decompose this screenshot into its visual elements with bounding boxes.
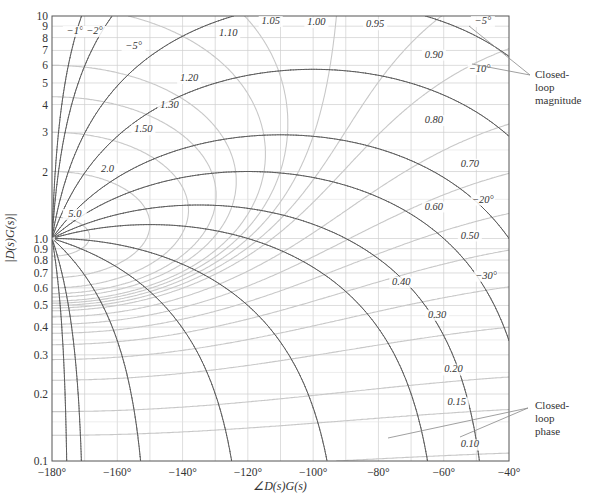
phase-contour-label: −5° xyxy=(475,15,492,26)
magnitude-contour-label: 1.10 xyxy=(219,27,238,38)
phase-contour-label: −5° xyxy=(125,40,142,51)
annotation-text: magnitude xyxy=(535,94,582,106)
magnitude-contour-label: 1.50 xyxy=(134,123,153,134)
y-tick-label: 0.3 xyxy=(34,349,49,361)
x-tick-label: −80° xyxy=(367,466,390,478)
magnitude-contour-label: 0.60 xyxy=(425,201,444,212)
y-tick-label: 7 xyxy=(42,44,48,56)
x-tick-label: −180° xyxy=(38,466,67,478)
x-tick-label: −40° xyxy=(498,466,521,478)
annotation-closed-loop-phase: Closed- loop phase xyxy=(388,399,570,438)
y-tick-label: 2 xyxy=(42,166,48,178)
y-tick-label: 8 xyxy=(42,32,48,44)
magnitude-contour-label: 1.30 xyxy=(160,99,179,110)
y-tick-label: 6 xyxy=(42,59,48,71)
y-tick-label: 0.8 xyxy=(34,254,49,266)
magnitude-contour-label: 0.30 xyxy=(428,309,447,320)
annotation-text: phase xyxy=(535,425,560,437)
y-tick-label: 4 xyxy=(42,99,48,111)
x-tick-label: −120° xyxy=(234,466,263,478)
magnitude-contour-label: 0.95 xyxy=(366,18,384,29)
magnitude-contour-label: 0.10 xyxy=(461,438,480,449)
x-axis-label: ∠D(s)G(s) xyxy=(253,479,307,493)
phase-contour xyxy=(55,205,479,461)
magnitude-contour-label: 0.40 xyxy=(392,276,411,287)
phase-contour-label: −1° xyxy=(67,25,84,36)
magnitude-contour-label: 2.0 xyxy=(101,163,115,174)
y-tick-label: 0.6 xyxy=(34,282,49,294)
magnitude-contour xyxy=(336,453,509,461)
y-tick-label: 0.5 xyxy=(34,299,49,311)
phase-contour-label: −2° xyxy=(86,25,103,36)
y-tick-label: 0.4 xyxy=(34,321,49,333)
x-tick-label: −60° xyxy=(432,466,455,478)
y-tick-label: 0.7 xyxy=(34,267,49,279)
y-tick-label: 0.2 xyxy=(34,388,49,400)
y-tick-label: 3 xyxy=(42,126,48,138)
y-tick-label: 9 xyxy=(42,20,48,32)
magnitude-contour-label: 0.20 xyxy=(444,363,463,374)
magnitude-contour-label: 5.0 xyxy=(68,208,82,219)
magnitude-contour-label: 1.20 xyxy=(180,72,199,83)
magnitude-contour-label: 0.70 xyxy=(461,158,480,169)
magnitude-contour-label: 0.50 xyxy=(461,230,480,241)
annotation-leader-line xyxy=(460,408,528,437)
magnitude-contour-label: 1.05 xyxy=(262,15,280,26)
annotation-text: Closed- xyxy=(535,68,570,80)
y-tick-label: 0.1 xyxy=(34,455,49,467)
magnitude-contour-label: 1.00 xyxy=(307,16,326,27)
phase-contour-label: −10° xyxy=(469,63,492,74)
magnitude-contour-label: 0.80 xyxy=(425,114,444,125)
y-axis-label: |D(s)G(s)| xyxy=(3,213,17,262)
magnitude-contour-label: 0.90 xyxy=(425,49,444,60)
y-tick-label: 0.9 xyxy=(34,243,49,255)
annotation-text: Closed- xyxy=(535,399,570,411)
x-tick-label: −140° xyxy=(168,466,197,478)
magnitude-contour-label: 0.15 xyxy=(448,396,466,407)
y-tick-label: 5 xyxy=(42,77,48,89)
phase-contour-label: −20° xyxy=(472,194,495,205)
phase-contour-label: −30° xyxy=(475,270,498,281)
x-tick-label: −160° xyxy=(103,466,132,478)
annotation-text: loop xyxy=(535,81,555,93)
x-tick-label: −100° xyxy=(299,466,328,478)
x-axis-ticks: −180°−160°−140°−120°−100°−80°−60°−40° xyxy=(38,466,521,478)
y-axis-ticks: 10987654321.00.90.80.70.60.50.40.30.20.1 xyxy=(34,10,49,467)
nichols-chart: −180°−160°−140°−120°−100°−80°−60°−40° 10… xyxy=(0,0,590,502)
magnitude-contour xyxy=(52,16,336,306)
annotation-text: loop xyxy=(535,412,555,424)
